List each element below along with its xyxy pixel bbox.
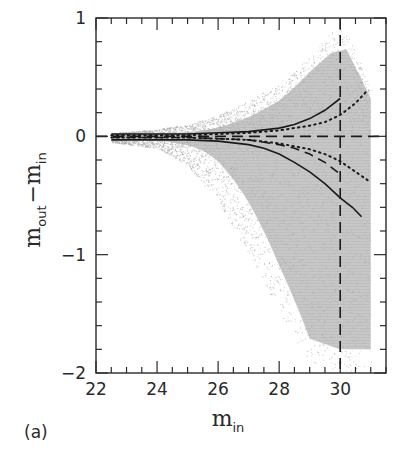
x-tick-label: 22	[85, 379, 107, 399]
panel-label: (a)	[24, 422, 48, 442]
chart-canvas: 2224262830−2−101 mout−min min (a)	[0, 0, 407, 456]
x-axis-title: min	[212, 406, 245, 435]
scatter-cloud	[96, 18, 386, 374]
y-axis-title: mout−min	[20, 152, 49, 247]
y-tick-label: −1	[61, 245, 86, 265]
y-tick-label: 0	[75, 126, 86, 146]
svg-text:mout−min: mout−min	[20, 152, 49, 247]
x-tick-label: 28	[268, 379, 290, 399]
x-tick-label: 24	[146, 379, 168, 399]
svg-text:min: min	[212, 406, 245, 435]
x-tick-label: 30	[329, 379, 351, 399]
x-tick-label: 26	[207, 379, 229, 399]
y-tick-label: −2	[61, 363, 86, 383]
y-tick-label: 1	[75, 8, 86, 28]
